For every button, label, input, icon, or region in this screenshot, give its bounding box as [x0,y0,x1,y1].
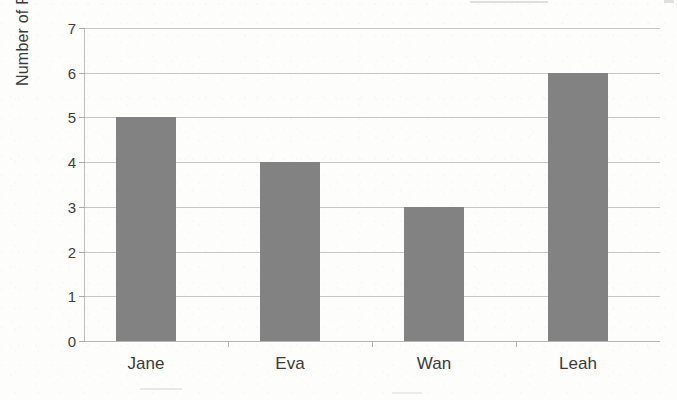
y-tick-mark [79,252,85,253]
scan-artifact-mark [664,0,674,3]
bar-chart-screenshot: Number of Pets 01234567 JaneEvaWanLeah [0,0,677,400]
y-tick-label: 3 [50,200,76,215]
y-tick-mark [79,162,85,163]
bar-jane[interactable] [116,117,176,341]
y-tick-label: 5 [50,110,76,125]
x-axis-label-eva: Eva [220,355,360,372]
x-axis-label-wan: Wan [364,355,504,372]
y-tick-label: 6 [50,66,76,81]
x-axis-label-leah: Leah [508,355,648,372]
y-tick-mark [79,117,85,118]
y-tick-label: 7 [50,21,76,36]
y-tick-mark [79,207,85,208]
y-tick-label: 2 [50,245,76,260]
y-tick-mark [79,341,85,342]
y-axis-title: Number of Pets [14,0,38,129]
bar-leah[interactable] [548,73,608,341]
y-tick-mark [79,28,85,29]
y-tick-mark [79,296,85,297]
x-tick-mark [516,341,517,347]
y-tick-label: 4 [50,155,76,170]
x-axis-label-jane: Jane [76,355,216,372]
scan-artifact-mark [392,392,422,394]
scan-artifact-mark [470,1,548,3]
x-tick-mark [372,341,373,347]
y-axis-line [84,28,85,341]
bar-eva[interactable] [260,162,320,341]
y-tick-label: 1 [50,289,76,304]
plot-area: 01234567 [84,28,660,341]
gridline [84,28,660,29]
scan-artifact-mark [140,388,182,390]
y-tick-mark [79,73,85,74]
x-tick-mark [228,341,229,347]
bar-wan[interactable] [404,207,464,341]
y-tick-label: 0 [50,334,76,349]
